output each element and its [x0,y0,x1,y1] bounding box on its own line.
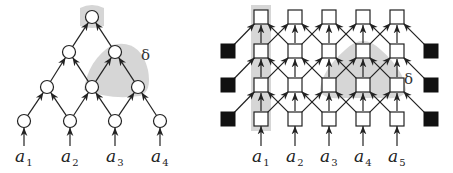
edge-arrow [28,92,44,115]
input-label: a3 [106,146,124,168]
tree-node [63,46,76,59]
tree-node [86,81,99,94]
input-label: a1 [15,146,33,168]
grid-node [322,10,336,24]
grid-node [288,78,302,92]
tree-node [86,11,99,24]
input-label: a4 [354,146,372,168]
input-label: a3 [320,146,338,168]
right-input-labels: a1a2a3a4a5 [252,146,406,168]
grid-node [390,10,404,24]
grid-node [356,44,370,58]
edge-arrow [403,91,424,112]
grid-node [390,112,404,126]
boundary-node-left [221,44,235,58]
input-subscript: 2 [72,157,78,168]
tree-node [18,115,31,128]
input-label: a2 [61,146,79,168]
input-subscript: 5 [399,157,405,168]
input-subscript: 4 [365,157,371,168]
boundary-node-left [221,78,235,92]
grid-node [288,10,302,24]
grid-node [322,112,336,126]
input-label: a2 [286,146,304,168]
grid-node [390,78,404,92]
grid-node [288,112,302,126]
edge-arrow [403,23,424,44]
grid-node [254,44,268,58]
input-subscript: 1 [263,157,269,168]
left-input-labels: a1a2a3a4 [15,146,169,168]
grid-node [322,78,336,92]
edge-arrow [73,57,89,81]
input-label: a1 [252,146,270,168]
tree-node [109,115,122,128]
input-subscript: 4 [162,157,168,168]
diagram-canvas: δ a1a2a3a4 δ a1a2a3a4a5 [0,0,453,173]
edge-arrow [142,92,157,115]
grid-node [254,112,268,126]
edge-arrow [51,92,67,115]
edge-arrow [50,58,65,82]
input-subscript: 1 [26,157,32,168]
left-delta-label: δ [141,46,150,64]
tree-node [109,46,122,59]
edge-arrow [74,92,89,115]
left-tree-diagram: δ a1a2a3a4 [15,5,169,168]
boundary-node-right [424,112,438,126]
input-label: a5 [388,146,406,168]
grid-node [390,44,404,58]
grid-node [288,44,302,58]
grid-node [254,78,268,92]
boundary-node-right [424,44,438,58]
grid-node [356,78,370,92]
grid-node [356,10,370,24]
tree-node [132,81,145,94]
tree-node [154,115,167,128]
boundary-node-right [424,78,438,92]
input-subscript: 2 [297,157,303,168]
tree-node [64,115,77,128]
tree-node [41,81,54,94]
grid-node [356,112,370,126]
boundary-node-left [221,112,235,126]
input-subscript: 3 [331,157,337,168]
right-grid-diagram: δ a1a2a3a4a5 [221,5,438,168]
input-label: a4 [151,146,169,168]
grid-node [322,44,336,58]
input-subscript: 3 [117,157,123,168]
grid-node [254,10,268,24]
right-delta-label: δ [404,70,413,88]
